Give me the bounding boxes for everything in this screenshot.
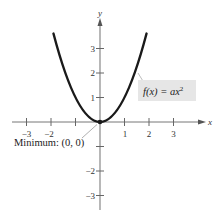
function-exponent: 2 [180,85,184,93]
x-tick-label: 2 [147,129,152,139]
minimum-label: Minimum: (0, 0) [14,137,85,149]
x-tick-label: 1 [123,129,128,139]
y-axis-arrow-icon [98,18,103,26]
y-tick-label: 1 [91,93,96,103]
y-axis-label: y [97,8,102,18]
x-axis-label: x [207,117,212,127]
x-axis-arrow-icon [198,120,206,125]
y-tick-label: −3 [85,191,95,201]
x-tick-label: 3 [171,129,176,139]
y-tick-label: −2 [85,166,95,176]
y-tick-label: 3 [91,44,96,54]
y-tick-label: 2 [91,68,96,78]
parabola-chart: −3 −2 1 2 3 3 2 1 −2 −3 x y Minimum: (0,… [0,0,219,220]
minimum-leader-line [82,125,97,139]
vertex-point [98,120,103,125]
function-label: f(x) = ax2 [143,85,184,98]
